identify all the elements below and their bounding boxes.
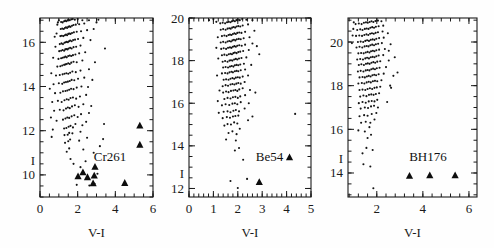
data-point xyxy=(368,57,370,59)
data-point xyxy=(235,83,237,85)
data-point xyxy=(220,29,222,31)
data-point xyxy=(224,72,226,74)
data-point xyxy=(239,19,241,21)
data-point xyxy=(352,34,354,36)
data-point xyxy=(368,75,370,77)
data-point xyxy=(359,96,361,98)
data-point xyxy=(360,108,362,110)
data-point xyxy=(69,138,71,140)
data-point xyxy=(367,34,369,36)
data-point xyxy=(242,76,244,78)
data-point xyxy=(378,37,380,39)
data-point xyxy=(237,97,239,99)
data-point xyxy=(231,130,233,132)
data-point xyxy=(365,63,367,65)
data-point xyxy=(371,44,373,46)
data-point xyxy=(62,119,64,121)
data-point xyxy=(367,137,369,139)
plot-cr261: 024610121416IV-ICr261 xyxy=(0,0,165,248)
data-point xyxy=(231,103,233,105)
data-point xyxy=(372,149,374,151)
data-point xyxy=(245,19,247,21)
data-point xyxy=(379,86,381,88)
data-point xyxy=(59,92,61,94)
data-point xyxy=(75,98,77,100)
data-point xyxy=(229,83,231,85)
data-point xyxy=(366,39,368,41)
data-point xyxy=(72,61,74,63)
data-point xyxy=(54,36,56,38)
data-point xyxy=(71,47,73,49)
data-point xyxy=(227,79,229,81)
data-point xyxy=(217,57,219,59)
data-point xyxy=(239,128,241,130)
data-point xyxy=(227,72,229,74)
data-point-triangle xyxy=(286,153,293,160)
data-point xyxy=(375,26,377,28)
data-point xyxy=(229,111,231,113)
data-point xyxy=(244,31,246,33)
data-point xyxy=(361,89,363,91)
data-point xyxy=(238,88,240,90)
data-point xyxy=(365,69,367,71)
data-point xyxy=(376,61,378,63)
data-point xyxy=(88,68,90,70)
data-point xyxy=(63,127,65,129)
data-point xyxy=(359,58,361,60)
data-point xyxy=(361,23,363,25)
data-point xyxy=(366,57,368,59)
data-point xyxy=(373,74,375,76)
data-point xyxy=(365,21,367,23)
data-point xyxy=(93,28,95,30)
data-point xyxy=(222,92,224,94)
data-point xyxy=(85,94,87,96)
data-point xyxy=(54,46,56,48)
data-point xyxy=(232,89,234,91)
data-point xyxy=(355,46,357,48)
data-point xyxy=(363,34,365,36)
data-point xyxy=(237,82,239,84)
data-point xyxy=(362,41,364,43)
data-point xyxy=(229,117,231,119)
data-point xyxy=(375,74,377,76)
data-point xyxy=(240,83,242,85)
x-axis-label: V-I xyxy=(88,225,105,240)
data-point xyxy=(65,127,67,129)
data-point xyxy=(369,165,371,167)
data-point xyxy=(373,44,375,46)
data-point xyxy=(372,68,374,70)
data-point xyxy=(51,101,53,103)
data-point xyxy=(373,100,375,102)
data-point xyxy=(57,58,59,60)
data-point xyxy=(80,85,82,87)
plot-frame xyxy=(189,18,311,197)
data-point xyxy=(364,106,366,108)
data-point xyxy=(229,180,231,182)
data-point xyxy=(79,95,81,97)
data-point xyxy=(68,89,70,91)
data-point-triangle xyxy=(452,171,459,178)
data-point xyxy=(231,83,233,85)
data-point xyxy=(352,28,354,30)
data-point xyxy=(70,88,72,90)
data-point xyxy=(253,30,255,32)
data-point xyxy=(76,87,78,89)
data-point xyxy=(363,22,365,24)
data-point xyxy=(251,19,253,21)
data-point xyxy=(79,45,81,47)
data-point xyxy=(222,66,224,68)
data-point xyxy=(73,79,75,81)
data-point xyxy=(367,62,369,64)
data-point xyxy=(371,74,373,76)
data-point xyxy=(234,96,236,98)
data-point xyxy=(227,110,229,112)
data-point xyxy=(72,54,74,56)
data-point xyxy=(68,126,70,128)
data-point xyxy=(72,126,74,128)
data-point xyxy=(357,41,359,43)
data-point xyxy=(387,32,389,34)
y-axis-label: I xyxy=(339,151,343,166)
data-point xyxy=(220,48,222,50)
data-point xyxy=(370,93,372,95)
data-point xyxy=(378,92,380,94)
